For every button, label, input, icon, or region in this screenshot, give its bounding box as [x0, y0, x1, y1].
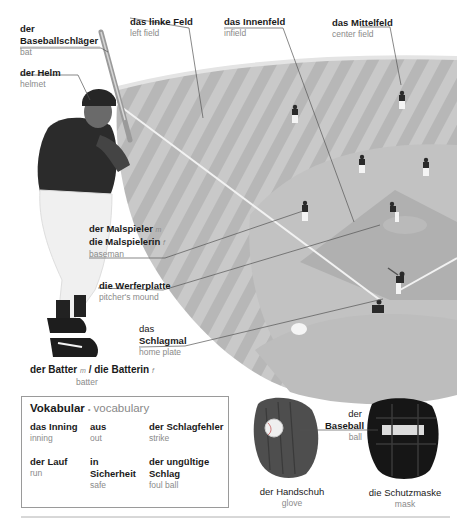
label-mask-de: die Schutzmaske [355, 487, 455, 499]
label-infield-en: infield [224, 28, 285, 39]
label-glove-de: der Handschuh [244, 486, 340, 498]
vocab-item: in Sicherheit safe [90, 456, 145, 491]
label-home-plate: das Schlagmal home plate [139, 323, 187, 358]
label-home-plate-de-2: Schlagmal [139, 335, 187, 347]
label-center-field-en: center field [332, 29, 393, 40]
label-ball: der Baseball ball [325, 408, 362, 443]
label-baseman-en: baseman [89, 249, 165, 260]
label-batter-en: batter [30, 377, 190, 388]
label-center-field-de: das Mittelfeld [332, 17, 393, 29]
label-bat-de-2: Baseballschläger [20, 35, 98, 47]
vocab-item: aus out [90, 421, 106, 444]
label-mask: die Schutzmaske mask [355, 487, 455, 510]
label-baseman-de-f: die Malspielerin f [89, 236, 165, 249]
label-mask-en: mask [355, 499, 455, 510]
label-infield-de: das Innenfeld [224, 16, 285, 28]
label-glove: der Handschuh glove [244, 486, 340, 509]
vocab-item: das Inning inning [30, 421, 78, 444]
label-glove-en: glove [244, 498, 340, 509]
label-baseman-de-m: der Malspieler m [89, 223, 165, 236]
label-batter-de: der Batter m / die Batterin f [30, 364, 190, 377]
label-helmet-en: helmet [20, 79, 61, 90]
vocabulary-title: Vokabular•vocabulary [30, 402, 149, 414]
label-home-plate-de-1: das [139, 323, 187, 335]
vocab-item: der ungültige Schlag foul ball [149, 456, 224, 491]
glove-illustration [254, 398, 319, 478]
vocabulary-box: Vokabular•vocabulary das Inning inning a… [21, 396, 229, 508]
label-bat-de-1: der [20, 23, 98, 35]
label-bat: der Baseballschläger bat [20, 23, 98, 58]
label-bat-en: bat [20, 47, 98, 58]
label-helmet-de: der Helm [20, 67, 61, 79]
label-ball-en: ball [325, 432, 362, 443]
label-ball-de-1: der [325, 408, 362, 420]
label-home-plate-en: home plate [139, 347, 187, 358]
label-mound: die Werferplatte pitcher's mound [99, 280, 171, 303]
label-left-field-en: left field [130, 28, 193, 39]
vocab-item: der Lauf run [30, 456, 67, 479]
label-ball-de-2: Baseball [325, 420, 362, 432]
label-mound-de: die Werferplatte [99, 280, 171, 292]
label-left-field-de: das linke Feld [130, 16, 193, 28]
label-mound-en: pitcher's mound [99, 292, 171, 303]
mask-illustration [367, 398, 438, 479]
label-center-field: das Mittelfeld center field [332, 17, 393, 40]
label-baseman: der Malspieler m die Malspielerin f base… [89, 223, 165, 260]
label-helmet: der Helm helmet [20, 67, 61, 90]
label-infield: das Innenfeld infield [224, 16, 285, 39]
label-batter: der Batter m / die Batterin f batter [30, 364, 190, 388]
vocab-item: der Schlagfehler strike [149, 421, 223, 444]
label-left-field: das linke Feld left field [130, 16, 193, 39]
